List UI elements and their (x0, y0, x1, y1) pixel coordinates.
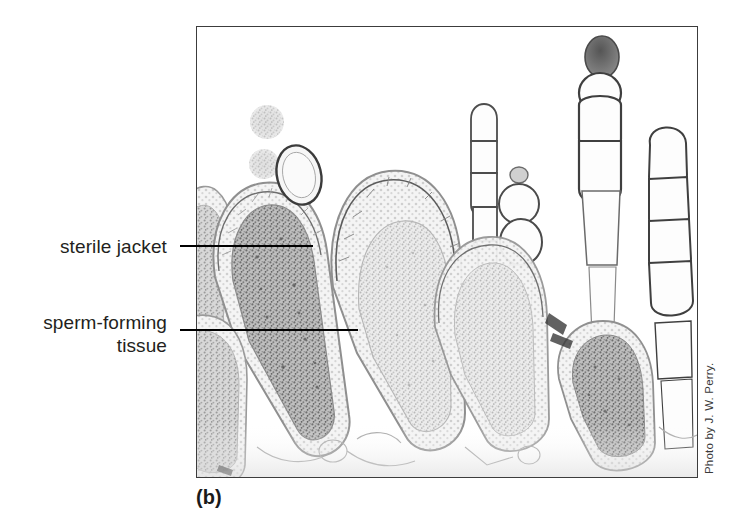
panel-letter: (b) (196, 486, 222, 509)
callout-label-sterile-jacket: sterile jacket (0, 235, 167, 258)
callout-label-sperm-forming-tissue: sperm-forming tissue (0, 311, 167, 357)
photo-credit: Photo by J. W. Perry. (703, 363, 715, 474)
leader-line-sperm-forming-tissue (180, 329, 358, 331)
micrograph-render (197, 27, 697, 477)
leader-line-sterile-jacket (180, 245, 313, 247)
micrograph-image (196, 26, 698, 478)
